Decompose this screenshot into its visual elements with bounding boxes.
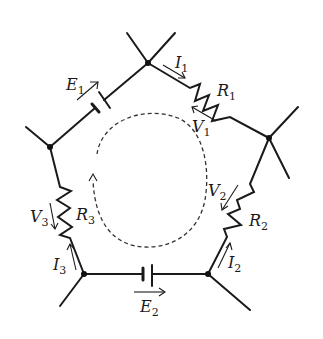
label-e1: E1 (65, 75, 85, 97)
label-v1: V1 (192, 117, 211, 139)
label-r3: R3 (75, 205, 95, 227)
branch-e2 (84, 265, 208, 286)
labels: E1 I1 R1 V1 V2 R2 I2 V3 R3 I3 E2 (30, 53, 268, 319)
label-i3: I3 (52, 255, 66, 277)
circuit-diagram: E1 I1 R1 V1 V2 R2 I2 V3 R3 I3 E2 (0, 0, 323, 339)
label-e2: E2 (139, 297, 159, 319)
label-v2: V2 (208, 181, 227, 203)
branch-r2 (208, 138, 269, 274)
label-i2: I2 (227, 253, 241, 275)
branch-e1 (50, 63, 148, 147)
resistor-r2 (208, 138, 269, 274)
loop-direction-arrow (89, 113, 207, 247)
battery-e1-plate-long (99, 92, 110, 108)
label-v3: V3 (30, 207, 49, 229)
label-i1: I1 (174, 53, 188, 75)
label-r1: R1 (216, 81, 236, 103)
label-r2: R2 (248, 211, 268, 233)
